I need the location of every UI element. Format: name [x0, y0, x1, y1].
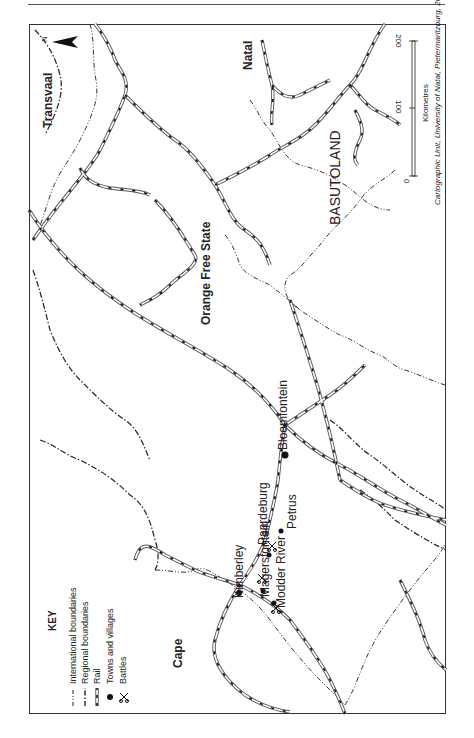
key-label-international: International boundaries	[68, 587, 78, 684]
map-credit: Cartographic Unit, University of Natal, …	[433, 0, 442, 205]
key-label-battles: Battles	[118, 656, 128, 684]
key-label-towns: Towns and villages	[105, 608, 115, 684]
town-label-kimberley: Kimberley	[232, 545, 246, 598]
scale-unit-label: Kilometres	[421, 84, 430, 122]
scale-bar: 0 100 200 Kilometres	[394, 34, 430, 184]
rail-lines	[29, 24, 446, 714]
town-label-bloemfontein: Bloemfontein	[276, 380, 290, 450]
region-label-basutoland: BASUTOLAND	[327, 130, 343, 225]
svg-text:N: N	[40, 36, 49, 42]
scale-tick-200: 200	[394, 34, 403, 48]
key-label-rail: Rail	[92, 668, 102, 684]
region-label-orange-free-state: Orange Free State	[199, 221, 213, 325]
scale-tick-100: 100	[394, 100, 403, 114]
international-boundaries	[33, 24, 445, 705]
regional-boundaries	[33, 30, 446, 570]
region-label-natal: Natal	[241, 41, 255, 70]
key-label-regional: Regional boundaries	[80, 601, 90, 684]
scale-tick-0: 0	[402, 179, 411, 184]
key-symbol-town	[107, 694, 113, 700]
town-label-petrus: Petrus	[285, 494, 299, 529]
north-arrow: N	[40, 36, 78, 48]
map-canvas: N Transvaal Natal Orange Free State BASU…	[0, 0, 474, 738]
key-title: KEY	[47, 610, 58, 631]
town-marker-petrus	[279, 529, 284, 534]
north-arrow-icon	[52, 36, 78, 48]
region-label-transvaal: Transvaal	[41, 73, 55, 128]
key-symbol-battle-icon	[120, 693, 129, 703]
town-label-modder-river: Modder River	[274, 536, 288, 608]
map-key: KEY International boundaries Regional bo…	[47, 587, 129, 706]
town-marker-bloemfontein	[282, 452, 289, 459]
region-label-cape: Cape	[171, 638, 185, 668]
town-label-magersfontein: Magersfontein	[258, 521, 272, 597]
